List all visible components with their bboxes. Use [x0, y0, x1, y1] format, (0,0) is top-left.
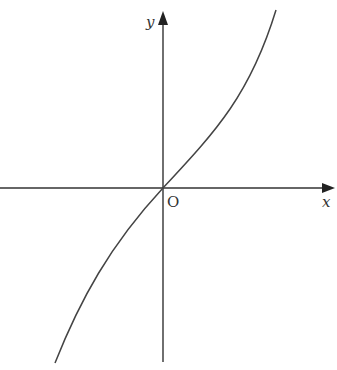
function-curve: [55, 10, 276, 363]
origin-label: O: [167, 193, 179, 211]
y-axis-arrow-icon: [158, 11, 168, 25]
x-axis-label: x: [322, 193, 331, 211]
function-graph: y O x: [0, 0, 337, 370]
y-axis-label: y: [145, 13, 155, 31]
x-axis-arrow-icon: [322, 183, 335, 193]
